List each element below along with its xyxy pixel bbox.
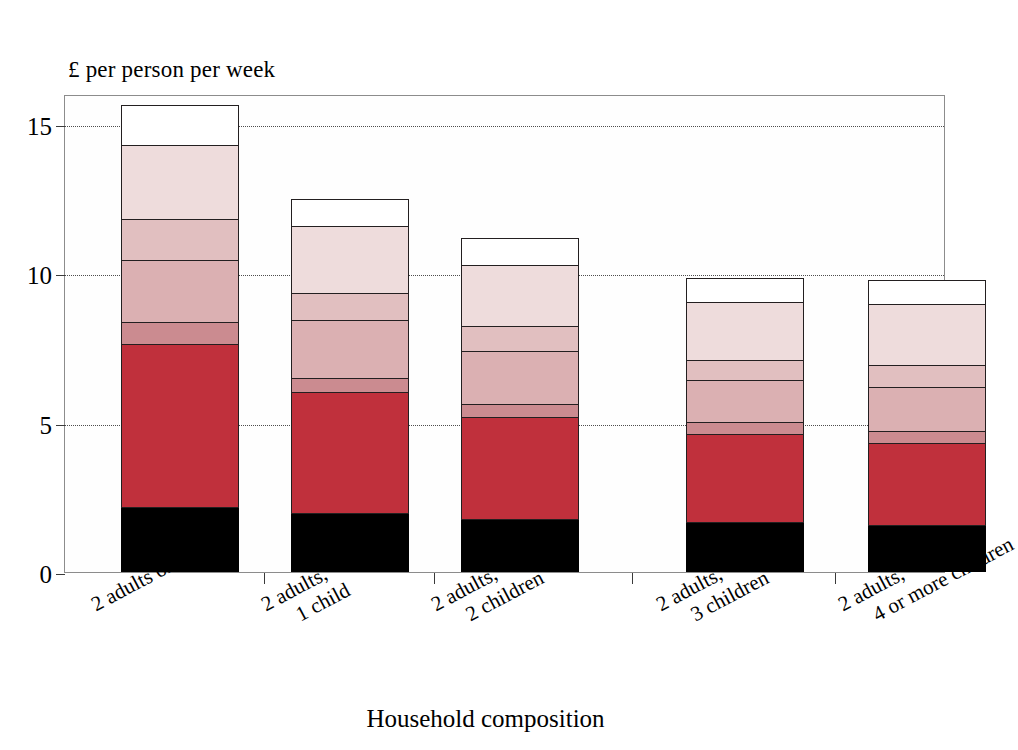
bar-segment[interactable] [121,219,239,262]
plot-area: 051015 [64,95,945,573]
bar-segment[interactable] [461,404,579,418]
bar-segment[interactable] [686,434,804,523]
bar-segment[interactable] [461,265,579,327]
x-axis-tick-mark [434,573,435,584]
y-axis-tick-label: 5 [40,412,53,437]
bar-segment[interactable] [291,293,409,321]
bar-segment[interactable] [121,260,239,322]
bar-1[interactable] [121,106,239,572]
bar-segment[interactable] [868,365,986,388]
y-axis-tick-label: 10 [27,263,52,288]
x-axis-tick-mark [835,573,836,584]
y-axis-tick-mark [56,574,65,575]
y-axis-tick-label: 0 [40,562,53,587]
bar-segment[interactable] [121,322,239,345]
bar-segment[interactable] [291,320,409,379]
bar-segment[interactable] [291,392,409,514]
bar-segment[interactable] [686,302,804,361]
y-axis-tick-mark [56,425,65,426]
bar-segment[interactable] [868,280,986,305]
bar-segment[interactable] [121,344,239,508]
bar-segment[interactable] [291,199,409,227]
bar-4[interactable] [686,279,804,572]
bar-segment[interactable] [686,380,804,423]
x-axis-tick-mark [264,573,265,584]
bar-segment[interactable] [291,226,409,294]
y-axis-title: £ per person per week [68,57,275,83]
bar-segment[interactable] [868,387,986,431]
bar-segment[interactable] [868,304,986,366]
bar-segment[interactable] [461,417,579,520]
bar-segment[interactable] [121,105,239,146]
y-axis-tick-mark [56,126,65,127]
bar-2[interactable] [291,200,409,572]
y-axis-tick-mark [56,275,65,276]
bar-3[interactable] [461,239,579,572]
bar-segment[interactable] [868,431,986,444]
bar-segment[interactable] [868,443,986,526]
y-axis-tick-label: 15 [27,113,52,138]
bar-segment[interactable] [291,378,409,392]
bar-segment[interactable] [121,145,239,219]
bar-segment[interactable] [291,513,409,572]
bar-segment[interactable] [461,326,579,352]
bar-segment[interactable] [461,351,579,404]
x-axis-tick-mark [632,573,633,584]
bar-segment[interactable] [686,360,804,380]
bar-segment[interactable] [461,238,579,266]
x-axis-title: Household composition [0,705,971,733]
bar-segment[interactable] [686,278,804,303]
bar-segment[interactable] [686,422,804,435]
